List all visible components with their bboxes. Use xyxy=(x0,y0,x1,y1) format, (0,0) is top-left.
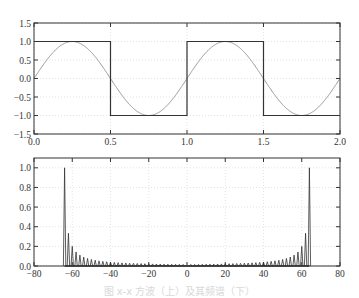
x-tick-label: 2.0 xyxy=(334,137,346,147)
bottom-chart: −80−60−40−200204060801.00.80.60.40.20.0 xyxy=(19,158,345,279)
figure-caption: 图 x-x 方波（上）及其频谱（下） xyxy=(0,283,359,298)
y-tick-label: 0.5 xyxy=(19,56,31,66)
x-tick-label: 60 xyxy=(297,269,307,279)
x-tick-label: 80 xyxy=(335,269,345,279)
x-tick-label: 20 xyxy=(221,269,231,279)
y-tick-label: 0.0 xyxy=(19,262,31,272)
y-tick-label: −1.5 xyxy=(14,130,31,140)
y-tick-label: 1.0 xyxy=(19,37,31,47)
x-tick-label: −60 xyxy=(65,269,80,279)
y-tick-label: 1.5 xyxy=(19,19,31,29)
x-tick-label: −20 xyxy=(141,269,156,279)
x-tick-label: 0.5 xyxy=(105,137,117,147)
y-tick-label: 0.8 xyxy=(19,183,31,193)
x-tick-label: 0 xyxy=(185,269,190,279)
x-tick-label: 40 xyxy=(259,269,269,279)
y-tick-label: −1.0 xyxy=(14,111,31,121)
y-tick-label: 0.2 xyxy=(19,242,31,252)
y-tick-label: 0.6 xyxy=(19,203,31,213)
top-chart: 0.00.51.01.52.01.51.00.50.0−0.5−1.0−1.5 xyxy=(14,19,346,148)
y-tick-label: 0.0 xyxy=(19,74,31,84)
x-tick-label: 1.5 xyxy=(258,137,270,147)
x-tick-label: −40 xyxy=(103,269,118,279)
y-tick-label: 1.0 xyxy=(19,163,31,173)
x-tick-label: 1.0 xyxy=(181,137,193,147)
y-tick-label: 0.4 xyxy=(19,222,31,232)
y-tick-label: −0.5 xyxy=(14,93,31,103)
